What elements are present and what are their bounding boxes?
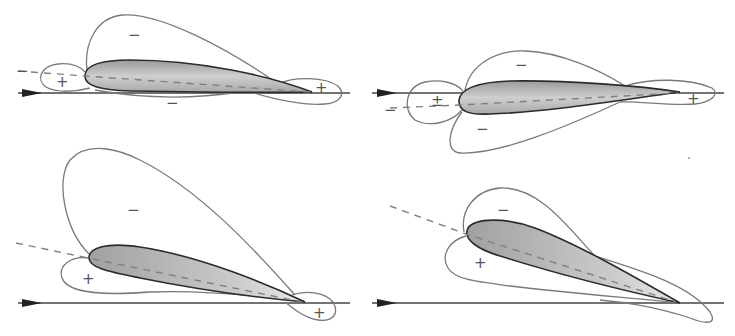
sign-minus: − xyxy=(128,26,141,44)
airfoil xyxy=(459,81,680,114)
flow-arrow-icon xyxy=(22,299,42,307)
sign-plus: + xyxy=(687,90,700,108)
flow-arrow-icon xyxy=(22,89,42,97)
panel-top-left: − − + − + xyxy=(16,15,350,112)
sign-minus: − xyxy=(16,62,29,80)
sign-minus: − xyxy=(497,201,510,219)
sign-plus: + xyxy=(56,73,69,91)
sign-plus: + xyxy=(315,79,328,97)
sign-minus: − xyxy=(384,101,397,119)
flow-arrow-icon xyxy=(377,89,397,97)
panel-bottom-right: − + xyxy=(372,188,724,322)
sign-minus: − xyxy=(515,56,528,74)
sign-plus: + xyxy=(313,304,326,322)
sign-minus: − xyxy=(127,201,140,219)
sign-plus-minus: ± xyxy=(431,92,444,110)
sign-plus: + xyxy=(474,254,487,272)
panel-top-right: − − ± − + xyxy=(372,51,724,159)
sign-minus: − xyxy=(166,94,179,112)
sign-minus: − xyxy=(476,120,489,138)
panel-bottom-left: − + + xyxy=(16,148,350,322)
airfoil-pressure-diagram: − − + − + − − ± − + xyxy=(0,0,735,336)
sign-plus: + xyxy=(82,270,95,288)
speck xyxy=(688,157,690,159)
airfoil xyxy=(85,60,312,92)
flow-arrow-icon xyxy=(377,299,397,307)
